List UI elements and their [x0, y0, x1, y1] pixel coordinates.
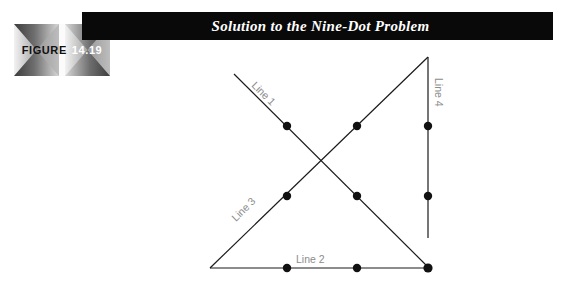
dot-top-2	[353, 122, 361, 130]
dot-middle-1	[283, 192, 291, 200]
dot-bottom-1	[283, 264, 291, 272]
line-1-stroke	[234, 74, 429, 268]
dot-bottom-2	[353, 264, 361, 272]
dot-middle-3	[424, 192, 432, 200]
line-4-label: Line 4	[433, 78, 445, 107]
dot-middle-2	[353, 192, 361, 200]
dot-bottom-3	[423, 263, 432, 272]
line-3-stroke	[210, 57, 428, 268]
line-2-label: Line 2	[296, 253, 325, 265]
dot-top-3	[424, 122, 432, 130]
diagram-line-labels: Line 1 Line 2 Line 3 Line 4	[229, 78, 445, 265]
dot-top-1	[283, 122, 291, 130]
diagram-lines	[210, 57, 429, 268]
line-3-label: Line 3	[229, 195, 258, 224]
nine-dot-diagram: Line 1 Line 2 Line 3 Line 4	[0, 0, 574, 291]
figure-page: FIGURE 14.19 Solution to the Nine-Dot Pr…	[0, 0, 574, 291]
